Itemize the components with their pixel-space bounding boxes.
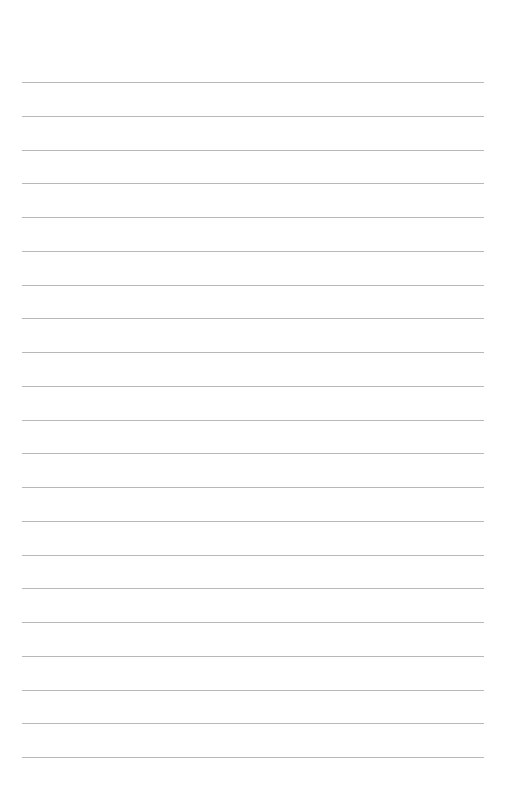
- ruled-line: [22, 116, 484, 117]
- ruled-line: [22, 82, 484, 83]
- ruled-line: [22, 150, 484, 151]
- ruled-line: [22, 622, 484, 623]
- ruled-line: [22, 723, 484, 724]
- ruled-line: [22, 285, 484, 286]
- ruled-line: [22, 588, 484, 589]
- ruled-line: [22, 183, 484, 184]
- ruled-line: [22, 521, 484, 522]
- ruled-line: [22, 318, 484, 319]
- ruled-line: [22, 690, 484, 691]
- ruled-line: [22, 656, 484, 657]
- ruled-line: [22, 420, 484, 421]
- ruled-line: [22, 757, 484, 758]
- ruled-line: [22, 386, 484, 387]
- ruled-line: [22, 217, 484, 218]
- ruled-line: [22, 487, 484, 488]
- lined-paper-page: [0, 0, 528, 801]
- ruled-line: [22, 453, 484, 454]
- ruled-line: [22, 251, 484, 252]
- ruled-line: [22, 555, 484, 556]
- ruled-line: [22, 352, 484, 353]
